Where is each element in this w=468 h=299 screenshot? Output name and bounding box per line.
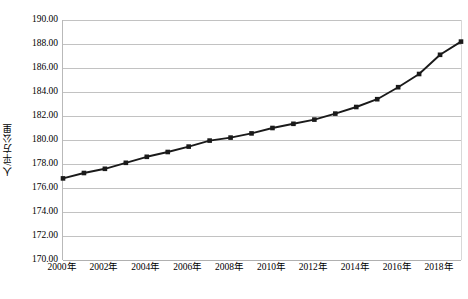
y-axis-tick-label: 184.00 <box>32 87 58 97</box>
x-axis-tick-label: 2002年 <box>89 263 118 273</box>
data-point-marker <box>207 138 212 143</box>
data-point-marker <box>82 171 87 176</box>
y-axis-tick-label: 186.00 <box>32 63 58 73</box>
series-line <box>63 42 461 179</box>
data-point-marker <box>165 150 170 155</box>
data-point-marker <box>291 122 296 127</box>
data-point-marker <box>459 39 464 44</box>
data-point-marker <box>417 72 422 77</box>
y-axis-tick-label: 182.00 <box>32 111 58 121</box>
data-point-marker <box>270 126 275 131</box>
data-point-marker <box>396 85 401 90</box>
y-axis-tick-label: 188.00 <box>32 39 58 49</box>
data-point-marker <box>144 155 149 160</box>
y-axis-tick-label: 176.00 <box>32 183 58 193</box>
data-point-marker <box>312 117 317 122</box>
x-axis-tick-label: 2006年 <box>173 263 202 273</box>
gridline <box>63 260 461 261</box>
y-axis-tick-label: 178.00 <box>32 159 58 169</box>
series-line-chart <box>63 20 461 260</box>
y-axis-tick-label: 180.00 <box>32 135 58 145</box>
y-axis-tick-label: 174.00 <box>32 207 58 217</box>
plot-area <box>62 20 462 260</box>
data-point-marker <box>186 144 191 149</box>
x-axis-tick-labels: 2000年2002年2004年2006年2008年2010年2012年2014年… <box>62 263 460 283</box>
y-axis-tick-labels: 190.00188.00186.00184.00182.00180.00178.… <box>16 20 60 260</box>
population-density-chart: 人/平方公里 190.00188.00186.00184.00182.00180… <box>0 0 468 299</box>
y-axis-tick-label: 190.00 <box>32 15 58 25</box>
data-point-marker <box>333 111 338 116</box>
x-axis-tick-label: 2004年 <box>131 263 160 273</box>
x-axis-tick-label: 2012年 <box>299 263 328 273</box>
x-axis-tick-label: 2010年 <box>257 263 286 273</box>
data-point-marker <box>438 53 443 58</box>
x-axis-tick-label: 2000年 <box>48 263 77 273</box>
data-point-marker <box>124 161 129 166</box>
data-point-marker <box>61 176 66 181</box>
x-axis-tick-label: 2016年 <box>383 263 412 273</box>
x-axis-tick-label: 2018年 <box>425 263 454 273</box>
x-axis-tick-label: 2014年 <box>341 263 370 273</box>
data-point-marker <box>375 97 380 102</box>
x-axis-tick-label: 2008年 <box>215 263 244 273</box>
y-axis-tick-label: 172.00 <box>32 231 58 241</box>
data-point-marker <box>228 135 233 140</box>
data-point-marker <box>354 105 359 110</box>
data-point-marker <box>249 131 254 136</box>
y-axis-title-label: 人/平方公里 <box>4 123 14 176</box>
data-point-marker <box>103 167 108 172</box>
